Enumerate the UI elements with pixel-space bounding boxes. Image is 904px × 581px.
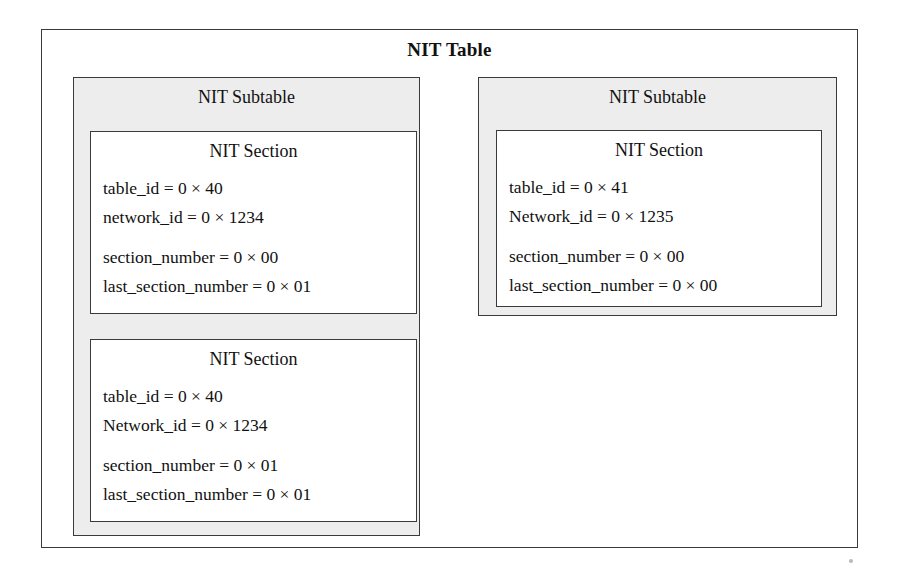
- nit-subtable-right: NIT Subtable NIT Section table_id = 0 × …: [478, 77, 837, 316]
- field-table-id: table_id = 0 × 40: [103, 382, 408, 411]
- nit-section-left-1-fields: table_id = 0 × 40 network_id = 0 × 1234 …: [103, 174, 408, 301]
- nit-table-container: NIT Table NIT Subtable NIT Section table…: [41, 29, 858, 548]
- field-network-id: network_id = 0 × 1234: [103, 203, 408, 232]
- nit-section-left-2-fields: table_id = 0 × 40 Network_id = 0 × 1234 …: [103, 382, 408, 509]
- nit-section-left-1: NIT Section table_id = 0 × 40 network_id…: [90, 131, 417, 314]
- field-table-id: table_id = 0 × 41: [509, 173, 813, 202]
- nit-section-right-1: NIT Section table_id = 0 × 41 Network_id…: [496, 130, 822, 307]
- nit-table-title: NIT Table: [42, 39, 857, 61]
- field-last-section-number: last_section_number = 0 × 00: [509, 271, 813, 300]
- field-last-section-number: last_section_number = 0 × 01: [103, 272, 408, 301]
- field-section-number: section_number = 0 × 00: [509, 242, 813, 271]
- nit-section-left-1-title: NIT Section: [91, 141, 416, 162]
- field-table-id: table_id = 0 × 40: [103, 174, 408, 203]
- field-last-section-number: last_section_number = 0 × 01: [103, 480, 408, 509]
- nit-subtable-left: NIT Subtable NIT Section table_id = 0 × …: [73, 77, 420, 536]
- nit-subtable-right-title: NIT Subtable: [479, 87, 836, 108]
- field-network-id: Network_id = 0 × 1235: [509, 202, 813, 231]
- scan-artifact-speck: [849, 559, 853, 563]
- nit-section-right-1-fields: table_id = 0 × 41 Network_id = 0 × 1235 …: [509, 173, 813, 300]
- nit-subtable-left-title: NIT Subtable: [74, 87, 419, 108]
- nit-section-left-2-title: NIT Section: [91, 349, 416, 370]
- nit-section-right-1-title: NIT Section: [497, 140, 821, 161]
- nit-section-left-2: NIT Section table_id = 0 × 40 Network_id…: [90, 339, 417, 522]
- field-section-number: section_number = 0 × 00: [103, 243, 408, 272]
- field-section-number: section_number = 0 × 01: [103, 451, 408, 480]
- field-network-id: Network_id = 0 × 1234: [103, 411, 408, 440]
